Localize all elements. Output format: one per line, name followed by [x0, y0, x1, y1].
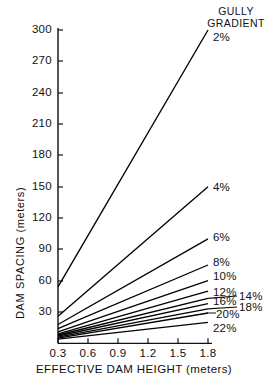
series-label-8pct: 8%: [213, 256, 230, 268]
x-tick-label: 1.5: [163, 347, 193, 359]
y-tick-label: 30: [12, 305, 52, 317]
x-tick-label: 1.2: [133, 347, 163, 359]
legend-title-line1: GULLY: [218, 5, 254, 17]
series-label-6pct: 6%: [213, 231, 230, 243]
series-line-10pct: [58, 281, 208, 332]
series-label-16pct: 16%: [213, 295, 237, 307]
series-label-18pct: 18%: [239, 301, 263, 313]
series-lines-group: [58, 30, 208, 339]
legend-title-line2: GRADIENT: [207, 17, 264, 29]
x-tick-label: 0.6: [73, 347, 103, 359]
series-line-2pct: [58, 30, 208, 287]
y-tick-label: 210: [12, 117, 52, 129]
legend-title: GULLY GRADIENT: [207, 6, 265, 29]
series-label-20pct: 20%: [216, 308, 240, 320]
y-tick-label: 60: [12, 274, 52, 286]
y-tick-label: 120: [12, 211, 52, 223]
series-label-2pct: 2%: [213, 31, 230, 43]
x-tick-label: 0.9: [103, 347, 133, 359]
y-tick-label: 240: [12, 86, 52, 98]
series-label-22pct: 22%: [213, 322, 237, 334]
series-label-4pct: 4%: [213, 181, 230, 193]
y-tick-label: 150: [12, 180, 52, 192]
y-tick-label: 300: [12, 23, 52, 35]
y-tick-label: 90: [12, 242, 52, 254]
x-axis-label: EFFECTIVE DAM HEIGHT (meters): [36, 363, 232, 375]
series-label-10pct: 10%: [213, 270, 237, 282]
x-tick-label: 1.8: [193, 347, 223, 359]
chart-figure: GULLY GRADIENT DAM SPACING (meters) EFFE…: [0, 0, 267, 386]
y-tick-label: 270: [12, 54, 52, 66]
x-tick-label: 0.3: [43, 347, 73, 359]
y-tick-label: 180: [12, 148, 52, 160]
